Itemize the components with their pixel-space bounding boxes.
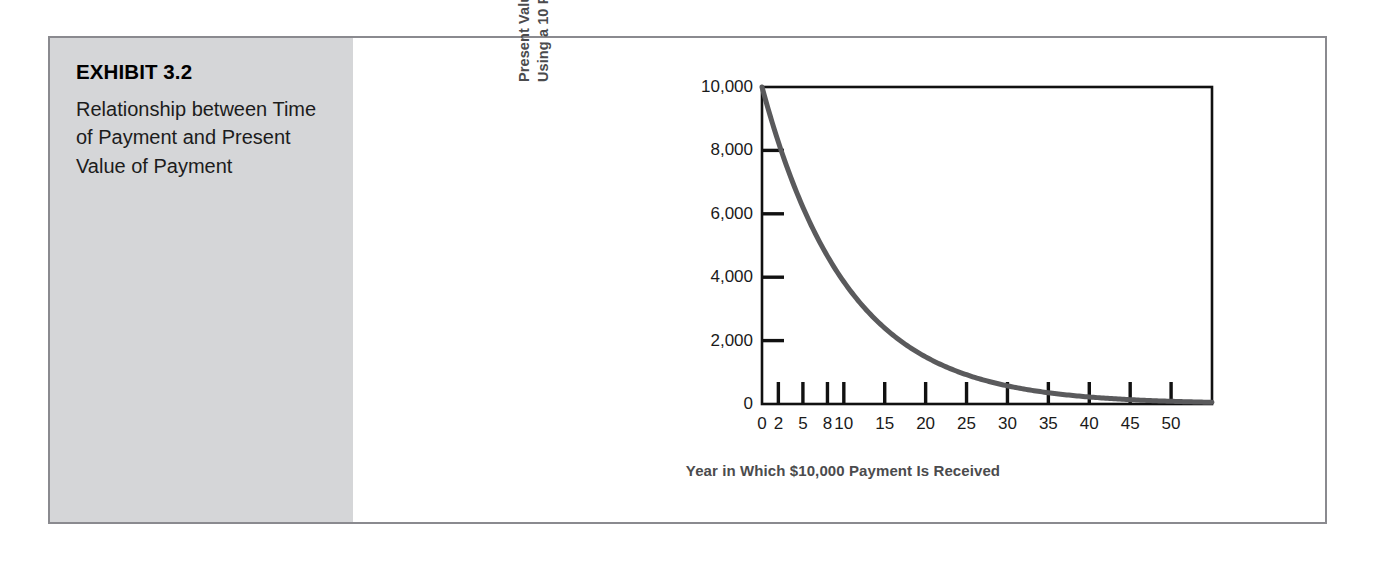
- y-tick-label: 4,000: [710, 267, 753, 287]
- y-tick-label: 10,000: [701, 77, 753, 97]
- plot-frame: [762, 87, 1212, 404]
- x-tick-label: 20: [916, 414, 935, 434]
- x-tick-label: 30: [998, 414, 1017, 434]
- present-value-decay-chart: [353, 38, 1329, 522]
- x-tick-label: 0: [757, 414, 766, 434]
- x-tick-label: 2: [774, 414, 783, 434]
- exhibit-caption-text: Relationship between Time of Payment and…: [76, 95, 327, 180]
- present-value-curve: [762, 87, 1212, 402]
- x-tick-label: 10: [834, 414, 853, 434]
- y-tick-label: 8,000: [710, 140, 753, 160]
- exhibit-page: EXHIBIT 3.2 Relationship between Time of…: [0, 0, 1373, 561]
- x-tick-label: 8: [823, 414, 832, 434]
- x-tick-label: 45: [1121, 414, 1140, 434]
- x-tick-label: 40: [1080, 414, 1099, 434]
- x-tick-label: 35: [1039, 414, 1058, 434]
- x-tick-label: 15: [875, 414, 894, 434]
- y-tick-label: 0: [744, 394, 753, 414]
- y-tick-label: 2,000: [710, 331, 753, 351]
- exhibit-frame: EXHIBIT 3.2 Relationship between Time of…: [48, 36, 1327, 524]
- chart-area: Present Value of $10,000 Payment Using a…: [353, 38, 1325, 522]
- x-tick-label: 5: [798, 414, 807, 434]
- exhibit-number: EXHIBIT 3.2: [76, 60, 327, 84]
- x-tick-label: 50: [1162, 414, 1181, 434]
- y-tick-label: 6,000: [710, 204, 753, 224]
- x-tick-label: 25: [957, 414, 976, 434]
- exhibit-caption-panel: EXHIBIT 3.2 Relationship between Time of…: [50, 38, 353, 522]
